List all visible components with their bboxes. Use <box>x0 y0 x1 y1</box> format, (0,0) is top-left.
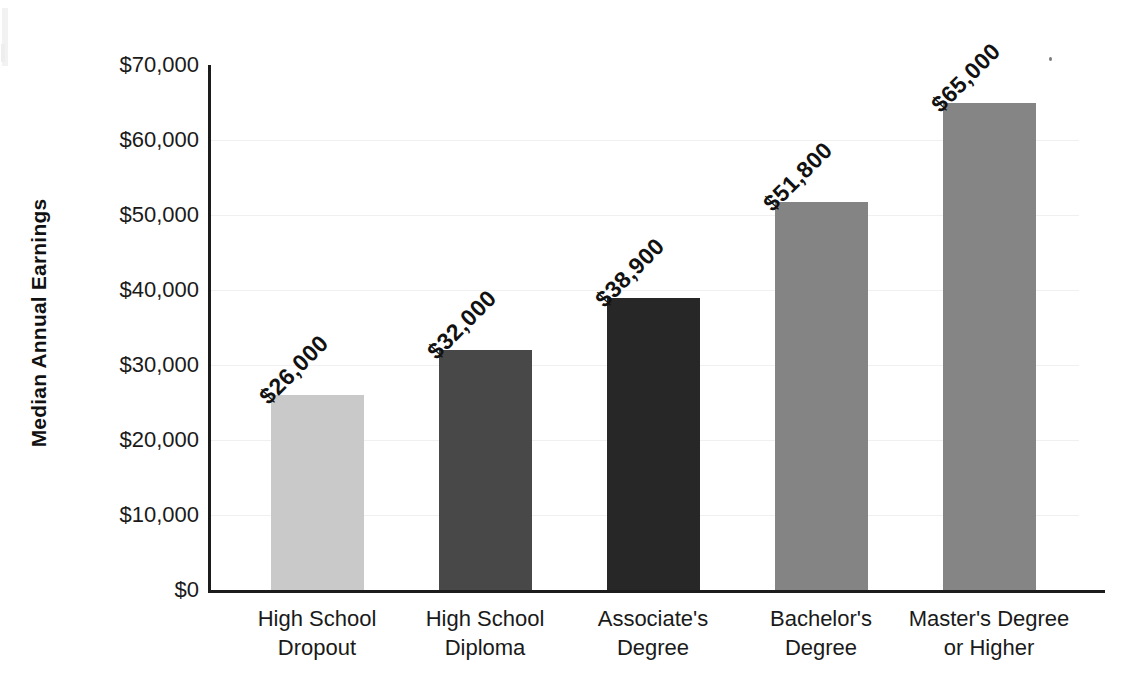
bar <box>439 350 532 590</box>
y-axis-title: Median Annual Earnings <box>22 0 56 685</box>
y-axis-title-text: Median Annual Earnings <box>27 198 51 447</box>
y-axis-tick-label: $40,000 <box>119 277 199 303</box>
bar <box>271 395 364 590</box>
x-axis-label-line: High School <box>426 606 545 631</box>
x-axis-label-line: or Higher <box>885 633 1093 662</box>
x-axis-category-label: Master's Degreeor Higher <box>885 604 1093 662</box>
x-axis-label-line: Bachelor's <box>770 606 872 631</box>
x-axis-line <box>208 590 1105 593</box>
y-axis-tick-label: $60,000 <box>119 127 199 153</box>
bar <box>943 103 1036 591</box>
y-axis-tick-label: $30,000 <box>119 352 199 378</box>
scan-artifact-secondary <box>1 44 5 62</box>
plot-area: $26,000$32,000$38,900$51,800$65,000 <box>211 65 1106 590</box>
y-axis-tick-label: $0 <box>175 577 199 603</box>
bar-chart: Median Annual Earnings $0$10,000$20,000$… <box>0 0 1121 685</box>
x-axis-label-line: Master's Degree <box>909 606 1070 631</box>
scan-speck <box>1049 57 1052 61</box>
y-axis-tick-label: $10,000 <box>119 502 199 528</box>
bar <box>607 298 700 590</box>
x-axis-label-line: Associate's <box>598 606 709 631</box>
bar <box>775 202 868 591</box>
y-axis-tick-label: $20,000 <box>119 427 199 453</box>
y-axis-tick-label: $70,000 <box>119 52 199 78</box>
y-axis-line <box>208 65 211 592</box>
x-axis-label-line: High School <box>258 606 377 631</box>
y-axis-tick-label: $50,000 <box>119 202 199 228</box>
